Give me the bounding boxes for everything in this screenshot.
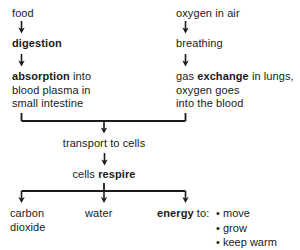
node-energy: energy to: bbox=[157, 207, 209, 221]
bracket-split-icon bbox=[16, 183, 196, 209]
arrow-down-icon bbox=[100, 153, 109, 166]
node-transport-to-cells: transport to cells bbox=[0, 137, 208, 151]
list-item: •move bbox=[216, 206, 277, 221]
bullet-icon: • bbox=[216, 221, 223, 236]
node-energy-rest: to: bbox=[194, 207, 210, 219]
node-breathing: breathing bbox=[176, 37, 223, 51]
node-absorption-bold: absorption bbox=[12, 70, 70, 82]
node-gas-exchange-bold: exchange bbox=[197, 70, 249, 82]
node-energy-bold: energy bbox=[157, 207, 194, 219]
list-item-label: move bbox=[223, 207, 250, 219]
list-item: •grow bbox=[216, 221, 277, 236]
node-oxygen-in-air: oxygen in air bbox=[176, 7, 240, 21]
node-food: food bbox=[12, 7, 34, 21]
list-item: •keep warm bbox=[216, 235, 277, 250]
arrow-down-icon bbox=[181, 21, 190, 34]
node-carbon-dioxide: carbon dioxide bbox=[10, 207, 80, 234]
energy-uses-list: •move •grow •keep warm bbox=[216, 206, 277, 250]
node-gas-exchange: gas exchange in lungs, oxygen goes into … bbox=[176, 70, 300, 111]
arrow-down-icon bbox=[17, 54, 26, 67]
node-cells-respire-pre: cells bbox=[72, 168, 98, 180]
bullet-icon: • bbox=[216, 235, 223, 250]
list-item-label: grow bbox=[223, 222, 247, 234]
node-cells-respire-bold: respire bbox=[98, 168, 135, 180]
bullet-icon: • bbox=[216, 206, 223, 221]
node-absorption: absorption into blood plasma in small in… bbox=[12, 70, 162, 111]
node-digestion: digestion bbox=[12, 37, 62, 51]
list-item-label: keep warm bbox=[223, 236, 277, 248]
node-cells-respire: cells respire bbox=[0, 168, 208, 182]
node-gas-exchange-pre: gas bbox=[176, 70, 197, 82]
arrow-down-icon bbox=[17, 21, 26, 34]
bracket-merge-icon bbox=[16, 112, 196, 136]
arrow-down-icon bbox=[181, 54, 190, 67]
node-water: water bbox=[85, 207, 112, 221]
